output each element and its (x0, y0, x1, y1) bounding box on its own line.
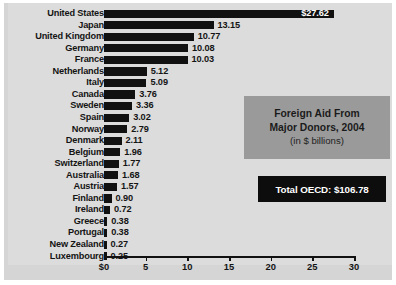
bar-row: Italy5.09 (8, 77, 396, 89)
value-label: 1.57 (121, 181, 138, 193)
bar-row: United Kingdom10.77 (8, 31, 396, 43)
category-label: Denmark (8, 135, 104, 147)
bar-row: Ireland0.72 (8, 204, 396, 216)
value-label: 1.68 (122, 170, 139, 182)
category-label: Australia (8, 170, 104, 182)
total-oecd-badge: Total OECD: $106.78 (258, 176, 386, 202)
bar (104, 241, 107, 249)
value-label: 2.11 (126, 135, 143, 147)
chart-frame: United States$27.62Japan13.15United King… (4, 3, 392, 280)
x-tick-label: $0 (99, 261, 109, 272)
x-tick-label: 10 (182, 261, 192, 272)
x-tick-label: 30 (349, 261, 359, 272)
bar-row: Greece0.38 (8, 216, 396, 228)
value-label: 10.77 (198, 31, 221, 43)
bar (104, 56, 188, 64)
value-label: 0.90 (116, 193, 133, 205)
value-label: 0.38 (111, 216, 128, 228)
category-label: Switzerland (8, 158, 104, 170)
category-label: Germany (8, 43, 104, 55)
category-label: Japan (8, 20, 104, 32)
bar (104, 148, 120, 156)
bar-row: Switzerland1.77 (8, 158, 396, 170)
bar-row: Netherlands5.12 (8, 66, 396, 78)
category-label: Luxembourg (8, 251, 104, 263)
chart-title-box: Foreign Aid From Major Donors, 2004 (in … (244, 96, 390, 159)
bar (104, 171, 118, 179)
bar-row: Portugal0.38 (8, 227, 396, 239)
value-label: 10.03 (192, 54, 215, 66)
value-label: 0.27 (111, 239, 128, 251)
bar (104, 217, 107, 225)
bar-row: Germany10.08 (8, 43, 396, 55)
value-label: 5.12 (151, 66, 168, 78)
title-subtitle: (in $ billions) (290, 134, 344, 148)
title-line-1: Foreign Aid From (274, 107, 359, 121)
category-label: Spain (8, 112, 104, 124)
bar (104, 21, 214, 29)
bar (104, 194, 112, 202)
value-label: 0.38 (111, 227, 128, 239)
bar (104, 44, 188, 52)
bar (104, 33, 194, 41)
value-label: 1.96 (124, 147, 141, 159)
total-oecd-label: Total OECD: $106.78 (275, 184, 368, 195)
category-label: Ireland (8, 204, 104, 216)
category-label: United Kingdom (8, 31, 104, 43)
bar (104, 79, 146, 87)
category-label: New Zealand (8, 239, 104, 251)
category-label: Finland (8, 193, 104, 205)
category-label: Belgium (8, 147, 104, 159)
x-tick-label: 5 (143, 261, 148, 272)
value-label: 2.79 (131, 124, 148, 136)
bar-row: New Zealand0.27 (8, 239, 396, 251)
category-label: Canada (8, 89, 104, 101)
title-line-2: Major Donors, 2004 (270, 121, 365, 135)
category-label: Norway (8, 124, 104, 136)
value-label: 0.72 (114, 204, 131, 216)
bar (104, 67, 147, 75)
bar (104, 10, 334, 18)
category-label: Netherlands (8, 66, 104, 78)
bar (104, 125, 127, 133)
value-label: 5.09 (150, 77, 167, 89)
value-label: 3.76 (139, 89, 156, 101)
category-label: Greece (8, 216, 104, 228)
bar-row: France10.03 (8, 54, 396, 66)
bar (104, 160, 119, 168)
value-label: 13.15 (218, 20, 241, 32)
bar (104, 183, 117, 191)
bar (104, 137, 122, 145)
category-label: Portugal (8, 227, 104, 239)
bar (104, 102, 132, 110)
category-label: Sweden (8, 100, 104, 112)
category-label: France (8, 54, 104, 66)
value-label: 1.77 (123, 158, 140, 170)
x-tick-label: 15 (224, 261, 234, 272)
x-tick-label: 25 (307, 261, 317, 272)
category-label: United States (8, 8, 104, 20)
bar (104, 90, 135, 98)
bar-row: Japan13.15 (8, 20, 396, 32)
bar (104, 206, 110, 214)
category-label: Austria (8, 181, 104, 193)
value-label: 3.36 (136, 100, 153, 112)
value-label: 10.08 (192, 43, 215, 55)
value-label: 3.02 (133, 112, 150, 124)
x-tick-label: 20 (265, 261, 275, 272)
bar (104, 229, 107, 237)
value-label: $27.62 (301, 8, 329, 20)
category-label: Italy (8, 77, 104, 89)
bar-row: United States$27.62 (8, 8, 396, 20)
bar (104, 114, 129, 122)
